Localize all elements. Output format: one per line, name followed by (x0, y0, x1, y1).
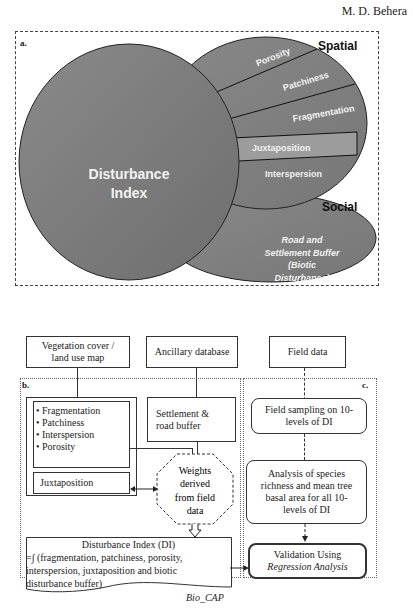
validation-box: Validation Using Regression Analysis (248, 543, 367, 579)
double-arrow-icon (128, 484, 160, 494)
weights-octagon: Weights derived from field data (155, 452, 235, 526)
disturbance-index-diagram: Disturbance Index Porosity Patchiness Fr… (0, 0, 413, 300)
panel-c-label: c. (362, 380, 368, 390)
svg-text:Interspersion: Interspersion (265, 169, 322, 179)
svg-text:data: data (187, 505, 204, 516)
svg-text:Disturbance): Disturbance) (274, 273, 329, 283)
svg-text:from field: from field (175, 492, 215, 503)
svg-text:(Biotic: (Biotic (288, 260, 316, 270)
svg-text:Road and: Road and (281, 235, 323, 245)
vegetation-cover-box: Vegetation cover / land use map (26, 336, 130, 368)
svg-text:derived: derived (180, 478, 210, 489)
bio-cap-label: Bio_CAP (186, 591, 224, 604)
svg-text:Settlement Buffer: Settlement Buffer (265, 248, 340, 258)
metrics-list: • Fragmentation • Patchiness • Intersper… (36, 405, 100, 453)
svg-text:Weights: Weights (179, 465, 212, 476)
hollow-down-arrow-icon (188, 524, 202, 538)
svg-text:Social: Social (322, 200, 357, 214)
field-sampling-box: Field sampling on 10- levels of DI (251, 398, 367, 434)
svg-text:Juxtaposition: Juxtaposition (252, 143, 311, 153)
di-title: Disturbance Index (DI) (26, 538, 231, 551)
svg-text:Spatial: Spatial (318, 39, 357, 53)
field-data-box: Field data (269, 336, 346, 368)
svg-text:Disturbance: Disturbance (89, 166, 170, 182)
panel-b-label: b. (22, 380, 29, 390)
ancillary-database-box: Ancillary database (146, 336, 238, 368)
disturbance-index-circle (19, 44, 239, 280)
svg-text:Index: Index (111, 185, 148, 201)
juxtaposition-box: Juxtaposition (33, 472, 130, 494)
di-formula: =∫ (fragmentation, patchiness, porosity,… (26, 551, 183, 590)
species-analysis-box: Analysis of species richness and mean tr… (246, 460, 367, 524)
dashed-arrow-down-icon (300, 524, 310, 544)
settlement-buffer-box: Settlement & road buffer (147, 397, 236, 442)
